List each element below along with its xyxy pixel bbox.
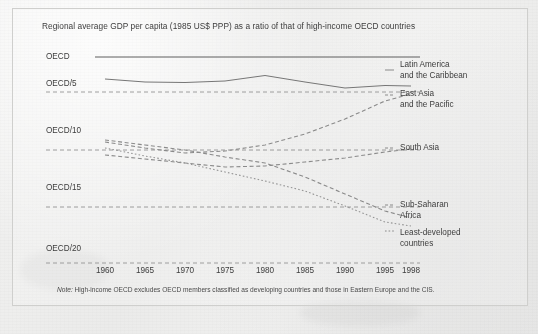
x-axis-label-1975: 1975 — [216, 266, 234, 275]
series-label-east-asia: East Asia and the Pacific — [400, 89, 454, 110]
series-label-south-asia: South Asia — [400, 143, 439, 154]
y-axis-label-oecd15: OECD/15 — [46, 183, 81, 192]
series-line-least-developed — [105, 148, 411, 226]
x-axis-label-1998: 1998 — [402, 266, 420, 275]
series-line-east-asia — [105, 94, 411, 153]
x-axis-label-1965: 1965 — [136, 266, 154, 275]
series-label-line: Least-developed — [400, 228, 461, 239]
note-text: High-income OECD excludes OECD members c… — [73, 286, 435, 293]
series-label-line: East Asia — [400, 89, 454, 100]
y-axis-label-oecd20: OECD/20 — [46, 244, 81, 253]
series-label-latin-america: Latin America and the Caribbean — [400, 60, 467, 81]
x-axis-label-1985: 1985 — [296, 266, 314, 275]
series-label-line: countries — [400, 239, 461, 250]
series-line-south-asia — [105, 149, 411, 167]
x-axis-label-1995: 1995 — [376, 266, 394, 275]
y-axis-label-oecd10: OECD/10 — [46, 126, 81, 135]
chart-note: Note: High-income OECD excludes OECD mem… — [57, 286, 435, 293]
series-label-line: and the Pacific — [400, 100, 454, 111]
series-label-line: Latin America — [400, 60, 467, 71]
note-prefix: Note: — [57, 286, 73, 293]
x-axis-label-1990: 1990 — [336, 266, 354, 275]
x-axis-label-1980: 1980 — [256, 266, 274, 275]
chart-plot-area — [0, 0, 538, 334]
series-label-least-developed: Least-developed countries — [400, 228, 461, 249]
series-label-line: South Asia — [400, 143, 439, 154]
x-axis-label-1970: 1970 — [176, 266, 194, 275]
series-label-line: Africa — [400, 211, 448, 222]
series-label-line: Sub-Saharan — [400, 200, 448, 211]
y-axis-label-oecd: OECD — [46, 52, 70, 61]
series-label-line: and the Caribbean — [400, 71, 467, 82]
gridlines — [46, 92, 420, 263]
x-axis-label-1960: 1960 — [96, 266, 114, 275]
series-line-latin-america — [105, 76, 411, 89]
y-axis-label-oecd5: OECD/5 — [46, 79, 76, 88]
series-label-sub-saharan-africa: Sub-Saharan Africa — [400, 200, 448, 221]
